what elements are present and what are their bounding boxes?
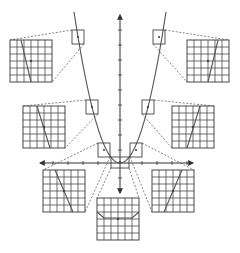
zoom-selection-boxes <box>72 30 165 168</box>
point-marker-top-left <box>77 36 79 38</box>
magnified-point-marker <box>30 60 32 62</box>
magnified-point-marker <box>43 126 45 128</box>
magnified-point-marker <box>63 190 65 192</box>
magnified-grid-mid-left <box>23 106 65 148</box>
magnified-point-marker <box>117 218 119 220</box>
magnified-grid-low-left <box>43 170 85 212</box>
dashed-connector-mid-left <box>23 100 86 106</box>
magnified-grid-bottom <box>97 198 139 240</box>
magnified-point-marker <box>192 126 194 128</box>
dashed-connector-bottom <box>129 168 139 198</box>
dashed-connector-mid-right <box>154 100 214 106</box>
magnified-point-marker <box>207 60 209 62</box>
point-marker-mid-right <box>147 106 149 108</box>
point-marker-top-right <box>158 36 160 38</box>
magnified-grid-top-left <box>10 40 52 82</box>
dashed-connector-bottom <box>97 168 111 198</box>
coordinate-axes <box>40 15 193 193</box>
magnified-point-marker <box>172 190 174 192</box>
magnified-grid-top-right <box>187 40 229 82</box>
dashed-connector-mid-left <box>65 114 98 148</box>
diagram-canvas: Local linearity of a parabola: zooming i… <box>0 0 240 253</box>
point-marker-low-left <box>103 149 105 151</box>
point-marker-low-right <box>135 149 137 151</box>
dashed-connector-top-left <box>10 30 72 40</box>
dashed-connector-top-right <box>153 44 187 82</box>
magnified-grid-low-right <box>152 170 194 212</box>
point-marker-mid-left <box>91 106 93 108</box>
dashed-connector-top-right <box>165 30 229 40</box>
parabola-zoom-diagram <box>0 0 240 253</box>
dashed-connector-top-left <box>52 44 84 82</box>
magnified-grid-mid-right <box>172 106 214 148</box>
dashed-connector-mid-right <box>142 114 172 148</box>
point-marker-bottom <box>119 161 121 163</box>
